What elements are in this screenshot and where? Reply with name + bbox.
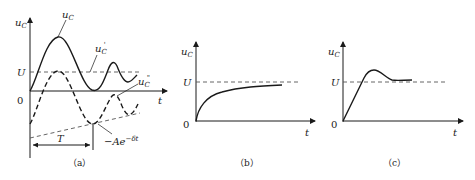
envelope-label: −Ae−δt [104, 135, 139, 147]
y-axis-label: uC [328, 46, 340, 59]
uc-steady-leader [90, 55, 97, 72]
period-label: T [57, 133, 65, 144]
origin-label: 0 [183, 119, 189, 130]
y-axis-label: uC [181, 46, 193, 59]
level-u-label: U [17, 67, 26, 78]
origin-label: 0 [17, 95, 23, 106]
envelope-leader [98, 124, 112, 134]
x-axis-label: t [305, 127, 310, 138]
x-axis-label: t [158, 95, 163, 106]
panel-a: uC t 0 U uC uC' uC" −Ae−δt T （a） [15, 9, 167, 168]
origin-label: 0 [331, 119, 337, 130]
response-curve [196, 85, 282, 121]
uc-transient-label: uC" [138, 74, 150, 89]
uc-leader [58, 20, 66, 37]
uc-steady-label: uC' [95, 41, 107, 56]
y-axis-label: uC [15, 17, 27, 30]
panel-b: uC t 0 U （b） [181, 42, 315, 168]
figure-canvas: uC t 0 U uC uC' uC" −Ae−δt T （a） uC t 0 [0, 0, 475, 180]
level-u-label: U [183, 77, 192, 88]
panel-c: uC t 0 U （c） [328, 42, 463, 168]
uc-transient-leader [117, 84, 138, 96]
caption-a: （a） [68, 158, 91, 168]
uc-total-label: uC [62, 9, 74, 22]
level-u-label: U [331, 77, 340, 88]
caption-b: （b） [235, 158, 259, 168]
x-axis-label: t [453, 127, 458, 138]
response-curve [343, 70, 412, 121]
caption-c: （c） [383, 158, 406, 168]
transient-curve [30, 71, 138, 124]
